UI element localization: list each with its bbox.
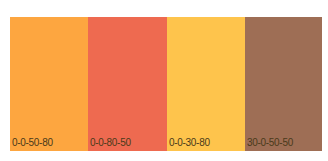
color-swatch-figure: 0-0-50-80 0-0-80-50 0-0-30-80 30-0-50-50: [0, 0, 328, 161]
swatch-label: 0-0-30-80: [169, 137, 210, 148]
swatch-label: 0-0-50-80: [12, 137, 53, 148]
swatch-30-0-50-50: 30-0-50-50: [245, 17, 322, 151]
swatch-label: 0-0-80-50: [90, 137, 131, 148]
swatch-0-0-30-80: 0-0-30-80: [167, 17, 245, 151]
swatch-label: 30-0-50-50: [247, 137, 293, 148]
swatch-strip: 0-0-50-80 0-0-80-50 0-0-30-80 30-0-50-50: [10, 17, 322, 151]
swatch-0-0-80-50: 0-0-80-50: [88, 17, 167, 151]
swatch-0-0-50-80: 0-0-50-80: [10, 17, 88, 151]
